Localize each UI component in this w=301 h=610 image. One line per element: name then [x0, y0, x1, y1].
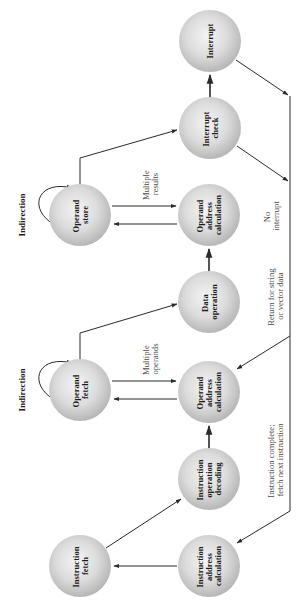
node-operand-address-calculation-fetch: Operand address calculation: [178, 361, 240, 423]
edge-no-interrupt: [237, 146, 288, 181]
edge-interrupt-to-return: [236, 60, 288, 95]
node-interrupt-check: Interrupt check: [179, 97, 241, 159]
node-data-operation: Data operation: [178, 271, 240, 333]
node-instruction-address-calculation: Instruction address calculation: [178, 535, 240, 597]
svg-text:Operand address ca: Operand address calculation: [195, 372, 223, 412]
edge-ifetch-to-decode: [106, 499, 181, 548]
node-operand-store: Operand store: [49, 184, 111, 246]
instruction-cycle-diagram: Interrupt Interrupt check Operand store …: [0, 0, 301, 610]
edge-instruction-complete: [237, 511, 290, 543]
label-instruction-complete: Instruction complete; fetch next instruc…: [266, 422, 285, 497]
edge-return-string-vector: [237, 336, 290, 369]
node-interrupt: Interrupt: [179, 10, 241, 72]
svg-text:Interrupt: Interrupt: [205, 23, 215, 58]
svg-text:Instruction operation: Instruction operation decoding: [195, 457, 223, 500]
node-operand-fetch: Operand fetch: [49, 359, 111, 421]
label-no-interrupt: No interrupt: [262, 201, 281, 231]
label-return-string-vector: Return for string or vector data: [266, 266, 285, 325]
label-indirection-store: Indirection: [17, 194, 27, 237]
node-instruction-fetch: Instruction fetch: [49, 535, 111, 597]
label-multiple-results: Multiple results: [141, 168, 160, 200]
svg-text:Operand address ca: Operand address calculation: [195, 195, 223, 235]
label-multiple-operands: Multiple operands: [141, 343, 160, 375]
edge-store-to-check: [80, 130, 177, 184]
edge-fetch-to-dataop: [80, 304, 177, 359]
node-instruction-operation-decoding: Instruction operation decoding: [178, 448, 240, 510]
node-operand-address-calculation-store: Operand address calculation: [178, 184, 240, 246]
label-indirection-fetch: Indirection: [17, 369, 27, 412]
